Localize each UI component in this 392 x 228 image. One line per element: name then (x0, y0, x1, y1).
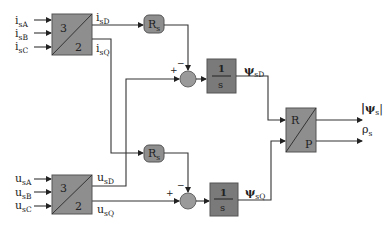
transform-bottom-label: 2 (75, 41, 82, 54)
summer-d-minus: − (177, 58, 185, 68)
output-psi-mag-label: |ψs| (361, 102, 383, 117)
resistor-q-block: Rs (144, 145, 164, 162)
isD-label: isD (96, 11, 109, 26)
transform-top-label: 3 (60, 22, 67, 35)
svg-text:s: s (220, 202, 225, 213)
svg-text:2: 2 (75, 200, 82, 213)
summer-q-plus: + (166, 188, 174, 198)
usD-label: usD (97, 171, 114, 186)
svg-text:3: 3 (60, 182, 67, 195)
svg-text:s: s (218, 79, 223, 90)
rect-to-polar-block: R P (286, 108, 316, 152)
summer-q-minus: − (177, 180, 185, 190)
current-inputs: isA isB isC (15, 14, 51, 55)
integrator-q-block: 1 s (210, 183, 238, 216)
isQ-label: isQ (96, 42, 110, 57)
transform-3-2-voltage: 3 2 (52, 175, 92, 214)
input-usC-label: usC (15, 199, 32, 214)
block-diagram: isA isB isC 3 2 isD isQ Rs + − 1 s ψsD (0, 0, 392, 228)
voltage-inputs: usA usB usC (15, 172, 51, 214)
svg-text:1: 1 (220, 187, 227, 198)
svg-text:1: 1 (218, 63, 225, 74)
input-isC-label: isC (15, 40, 28, 55)
psi-sD-label: ψsD (244, 64, 264, 79)
transform-3-2-current: 3 2 (52, 14, 92, 55)
summer-q (180, 193, 196, 209)
svg-text:R: R (291, 114, 300, 127)
usQ-label: usQ (97, 203, 114, 218)
wire-usD (92, 79, 179, 186)
svg-text:P: P (305, 138, 313, 151)
psi-sQ-label: ψsQ (245, 186, 265, 201)
resistor-d-block: Rs (144, 15, 164, 33)
integrator-d-block: 1 s (207, 59, 236, 93)
summer-d (180, 71, 196, 87)
input-usA-label: usA (15, 172, 32, 187)
output-rho-label: ρs (362, 123, 372, 138)
wire-psi-sD (236, 76, 285, 120)
